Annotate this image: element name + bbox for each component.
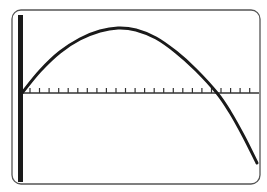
graph-screen [0, 0, 267, 192]
y-axis-bar [18, 15, 23, 182]
screen-frame [12, 10, 260, 184]
